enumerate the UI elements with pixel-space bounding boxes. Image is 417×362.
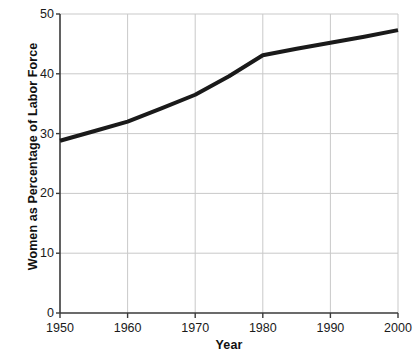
x-tick-label: 1990 [300, 321, 360, 335]
x-tick-label: 1970 [165, 321, 225, 335]
tick-marks [56, 14, 398, 318]
x-tick-label: 1980 [233, 321, 293, 335]
x-axis-title: Year [60, 338, 398, 352]
y-tick-label: 10 [8, 246, 54, 260]
gridlines [60, 14, 398, 313]
x-tick-label: 1960 [98, 321, 158, 335]
data-series-layer [60, 30, 398, 141]
x-tick-label: 2000 [368, 321, 417, 335]
y-tick-label: 30 [8, 127, 54, 141]
y-tick-label: 50 [8, 7, 54, 21]
y-tick-label: 40 [8, 67, 54, 81]
y-tick-label: 0 [8, 306, 54, 320]
series-line-0 [60, 30, 398, 141]
x-tick-label: 1950 [30, 321, 90, 335]
y-tick-label: 20 [8, 186, 54, 200]
y-axis-title: Women as Percentage of Labor Force [22, 0, 44, 313]
axis-lines [60, 14, 398, 313]
